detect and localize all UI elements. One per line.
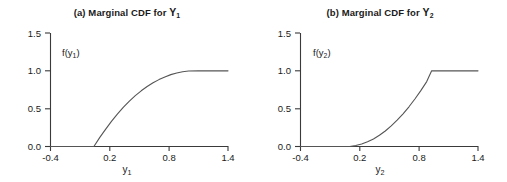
panel-a-y-ticks: [45, 33, 50, 147]
panel-b-xtick-0: -0.4: [292, 152, 308, 163]
figure-container: (a) Marginal CDF for Y1 0.0 0.5 1.0 1.5: [0, 0, 507, 182]
panel-a-ytick-1: 0.5: [28, 103, 41, 114]
panel-b-ytick-2: 1.0: [278, 65, 291, 76]
panel-b-xtick-1: 0.2: [353, 152, 366, 163]
panel-a-x-axis-label-sub: 1: [128, 168, 132, 177]
panel-b-curve-annotation: f(y2): [313, 47, 331, 58]
panel-b-ytick-1: 0.5: [278, 103, 291, 114]
panel-a-x-axis-label-main: y: [123, 164, 128, 175]
panel-a-xtick-1: 0.2: [103, 152, 116, 163]
panel-b-annotation-close: ): [327, 47, 330, 58]
panel-a-annotation-close: ): [76, 47, 79, 58]
panel-b-ytick-3: 1.5: [278, 28, 291, 39]
panel-b-annotation-sub: 2: [324, 52, 328, 59]
panel-b-x-axis-label-sub: 2: [381, 168, 385, 177]
panel-a-cdf-curve: [51, 71, 229, 147]
panel-a-x-axis-label: y1: [0, 164, 254, 175]
panel-b-cdf-curve: [301, 71, 479, 147]
panel-a-ytick-3: 1.5: [28, 28, 41, 39]
panel-b-y-ticks: [295, 33, 300, 147]
panel-b-xtick-2: 0.8: [412, 152, 425, 163]
panel-a-ytick-0: 0.0: [28, 141, 41, 152]
panel-a-annotation-sub: 1: [73, 52, 77, 59]
panel-a-ytick-2: 1.0: [28, 65, 41, 76]
panel-marginal-cdf-y1: (a) Marginal CDF for Y1 0.0 0.5 1.0 1.5: [0, 0, 254, 182]
panel-a-curve-annotation: f(y1): [62, 47, 80, 58]
panel-a-xtick-0: -0.4: [42, 152, 58, 163]
panel-a-xtick-3: 1.4: [221, 152, 234, 163]
panel-a-plot: 0.0 0.5 1.0 1.5 -0.4 0.2 0.8 1.4: [0, 0, 254, 182]
panel-b-x-axis-label-main: y: [376, 164, 381, 175]
panel-b-annotation-main: f(y: [313, 47, 324, 58]
panel-b-plot: 0.0 0.5 1.0 1.5 -0.4 0.2 0.8 1.4: [253, 0, 507, 182]
panel-b-x-axis-label: y2: [253, 164, 507, 175]
panel-a-annotation-main: f(y: [62, 47, 73, 58]
panel-b-ytick-0: 0.0: [278, 141, 291, 152]
panel-b-xtick-3: 1.4: [471, 152, 484, 163]
panel-marginal-cdf-y2: (b) Marginal CDF for Y2 0.0 0.5 1.0 1.5 …: [253, 0, 507, 182]
panel-a-xtick-2: 0.8: [162, 152, 175, 163]
